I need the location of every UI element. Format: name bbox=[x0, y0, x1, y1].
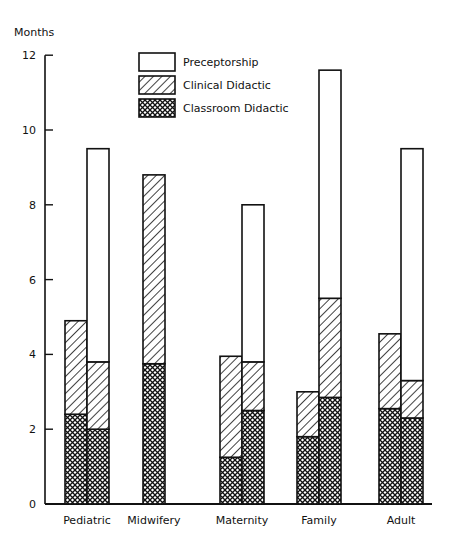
y-tick-label: 12 bbox=[22, 49, 36, 62]
bar-segment-preceptorship bbox=[242, 205, 264, 362]
x-tick-label: Family bbox=[301, 514, 337, 527]
bar-segment-classroom-didactic bbox=[65, 414, 87, 504]
bar-segment-classroom-didactic bbox=[242, 411, 264, 505]
bar-segment-clinical-didactic bbox=[401, 381, 423, 418]
y-tick-label: 4 bbox=[29, 348, 36, 361]
bar-segment-clinical-didactic bbox=[319, 298, 341, 397]
bar-segment-clinical-didactic bbox=[65, 321, 87, 415]
x-axis-labels: PediatricMidwiferyMaternityFamilyAdult bbox=[63, 514, 416, 527]
x-tick-label: Adult bbox=[387, 514, 416, 527]
bar-segment-classroom-didactic bbox=[220, 457, 242, 504]
stacked-bar-chart: Months 024681012 PediatricMidwiferyMater… bbox=[0, 0, 457, 556]
x-tick-label: Midwifery bbox=[127, 514, 181, 527]
legend-swatch bbox=[139, 99, 175, 117]
x-tick-label: Pediatric bbox=[63, 514, 111, 527]
bar-segment-classroom-didactic bbox=[319, 397, 341, 504]
bar-segment-clinical-didactic bbox=[379, 334, 401, 409]
legend-label: Clinical Didactic bbox=[183, 79, 271, 92]
bar-segment-clinical-didactic bbox=[143, 175, 165, 364]
y-axis-label: Months bbox=[14, 26, 54, 39]
x-tick-label: Maternity bbox=[216, 514, 269, 527]
legend: PreceptorshipClinical DidacticClassroom … bbox=[139, 53, 289, 117]
bar-segment-clinical-didactic bbox=[242, 362, 264, 411]
bar-segment-classroom-didactic bbox=[401, 418, 423, 504]
bar-segment-preceptorship bbox=[401, 149, 423, 381]
y-tick-label: 2 bbox=[29, 423, 36, 436]
bars bbox=[65, 70, 423, 504]
bar-segment-classroom-didactic bbox=[143, 364, 165, 504]
bar-segment-clinical-didactic bbox=[220, 356, 242, 457]
bar-segment-classroom-didactic bbox=[87, 429, 109, 504]
y-tick-label: 0 bbox=[29, 498, 36, 511]
bar-segment-clinical-didactic bbox=[297, 392, 319, 437]
bar-segment-classroom-didactic bbox=[297, 437, 319, 504]
bar-segment-classroom-didactic bbox=[379, 409, 401, 504]
bar-segment-preceptorship bbox=[319, 70, 341, 298]
legend-swatch bbox=[139, 53, 175, 71]
y-tick-label: 8 bbox=[29, 199, 36, 212]
legend-label: Classroom Didactic bbox=[183, 102, 289, 115]
legend-swatch bbox=[139, 76, 175, 94]
y-tick-label: 6 bbox=[29, 274, 36, 287]
bar-segment-preceptorship bbox=[87, 149, 109, 362]
bar-segment-clinical-didactic bbox=[87, 362, 109, 429]
y-tick-label: 10 bbox=[22, 124, 36, 137]
legend-label: Preceptorship bbox=[183, 56, 259, 69]
